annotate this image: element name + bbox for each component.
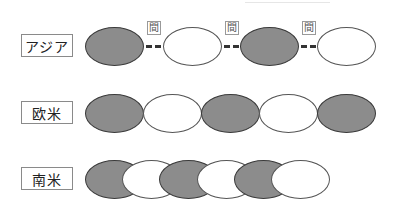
ellipse-gray <box>85 27 144 66</box>
ellipse-white <box>317 27 376 66</box>
ellipse-gray <box>240 27 299 66</box>
gap-dash <box>301 45 316 48</box>
label-europe-us: 欧米 <box>21 101 73 124</box>
faint-top-line <box>245 2 330 3</box>
ellipse-gray <box>85 94 144 133</box>
ellipse-gray <box>201 94 260 133</box>
ellipse-white <box>163 27 222 66</box>
label-south-america: 南米 <box>21 167 73 190</box>
gap-label: 間 <box>147 21 161 35</box>
gap-dash <box>224 45 239 48</box>
ellipse-white <box>271 160 330 199</box>
ellipse-white <box>259 94 318 133</box>
gap-label: 間 <box>225 21 239 35</box>
label-asia: アジア <box>21 34 73 57</box>
ellipse-white <box>143 94 202 133</box>
gap-label: 間 <box>302 21 316 35</box>
ellipse-gray <box>317 94 376 133</box>
gap-dash <box>146 45 161 48</box>
